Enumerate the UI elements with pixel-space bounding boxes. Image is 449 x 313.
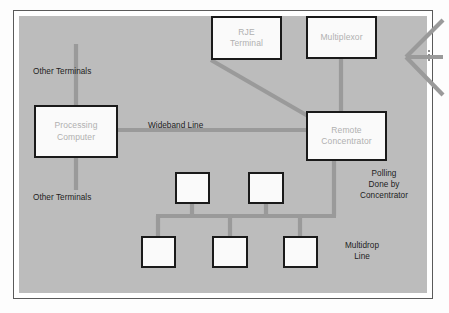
node-remote-concentrator-label: Remote Concentrator [321, 125, 371, 147]
node-processing-computer-label: Processing Computer [54, 120, 97, 142]
label-line: Multidrop [345, 241, 379, 250]
node-upper-left-terminal[interactable] [175, 172, 210, 204]
vertical-ellipsis-icon [428, 50, 430, 61]
line-multiplexor-fan-down [406, 57, 443, 95]
node-upper-right-terminal[interactable] [248, 172, 284, 204]
label-other-terminals-top: Other Terminals [33, 66, 91, 77]
label-line: Polling [372, 169, 397, 178]
node-lower-left-terminal[interactable] [141, 236, 176, 268]
node-label-line: RJE [238, 27, 254, 37]
label-line: Done by [369, 180, 400, 189]
node-lower-right-terminal[interactable] [283, 236, 318, 268]
node-remote-concentrator[interactable]: Remote Concentrator [306, 111, 387, 161]
dot [428, 50, 430, 52]
node-label-line: Terminal [230, 38, 263, 48]
line-rje-diagonal [211, 60, 308, 116]
node-label-line: Remote [331, 125, 361, 135]
dot [428, 59, 430, 61]
label-other-terminals-bottom: Other Terminals [33, 192, 91, 203]
figure-container: Processing Computer RJE Terminal Multipl… [0, 0, 449, 313]
node-multiplexor[interactable]: Multiplexor [306, 16, 377, 59]
node-rje-terminal-label: RJE Terminal [230, 27, 263, 49]
node-multiplexor-label: Multiplexor [320, 32, 362, 43]
label-polling-done-by-concentrator: Polling Done by Concentrator [336, 168, 432, 201]
line-multiplexor-fan-up [406, 20, 443, 57]
node-label-line: Computer [57, 132, 95, 142]
node-label-line: Processing [54, 120, 97, 130]
node-rje-terminal[interactable]: RJE Terminal [211, 16, 282, 60]
label-line: Concentrator [360, 191, 408, 200]
label-wideband-line: Wideband Line [148, 120, 203, 131]
node-label-line: Concentrator [321, 136, 371, 146]
dot [428, 54, 430, 56]
label-multidrop-line: Multidrop Line [327, 240, 397, 262]
node-processing-computer[interactable]: Processing Computer [34, 105, 118, 158]
label-line: Line [354, 252, 370, 261]
node-lower-middle-terminal[interactable] [212, 236, 248, 268]
